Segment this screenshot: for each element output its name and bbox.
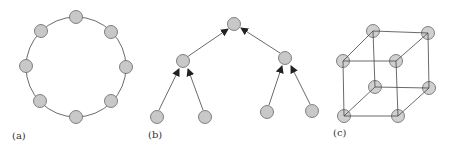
ring-node	[20, 60, 33, 73]
panel-c-label: (c)	[333, 127, 346, 138]
tree-leaf-node	[306, 105, 319, 118]
ring-node	[70, 111, 83, 124]
ring-node	[35, 25, 48, 38]
tree-leaf-node	[199, 111, 212, 124]
tree-node	[279, 52, 292, 65]
ring-node	[105, 26, 118, 39]
ring-node	[70, 11, 83, 24]
ring-node	[105, 95, 118, 108]
tree-leaf-node	[261, 106, 274, 119]
ring-diagram	[20, 11, 133, 124]
diagram-canvas	[0, 0, 459, 149]
tree-root-node	[228, 18, 241, 31]
ring-node	[120, 61, 133, 74]
ring-node	[34, 95, 47, 108]
tree-node	[177, 55, 190, 68]
cube-diagram	[337, 25, 436, 123]
tree-diagram	[151, 18, 319, 124]
panel-b-label: (b)	[148, 129, 162, 140]
tree-leaf-node	[151, 111, 164, 124]
panel-a-label: (a)	[12, 130, 26, 141]
